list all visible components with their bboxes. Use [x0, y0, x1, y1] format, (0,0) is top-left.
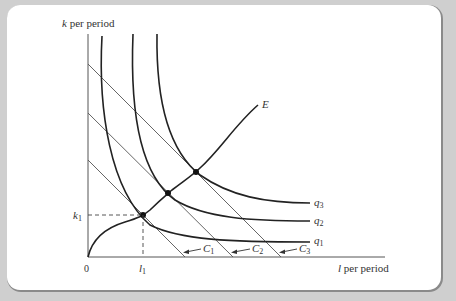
- k1-label: k1: [73, 209, 82, 223]
- cost-minimization-diagram: k per period l per period 0 q3 q2 q1 E k…: [0, 0, 456, 301]
- expansion-path-label: E: [261, 98, 269, 110]
- y-axis-label: k per period: [62, 17, 115, 29]
- origin-label: 0: [84, 263, 89, 274]
- isocost-c3-label: C3: [299, 242, 310, 256]
- isocost-c1-label: C1: [203, 242, 214, 256]
- isocost-c1: [88, 160, 185, 257]
- isoquant-q1-label: q1: [314, 234, 324, 248]
- isoquant-q2: [132, 34, 310, 221]
- x-axis-label: l per period: [338, 262, 389, 274]
- isocost-c3: [88, 64, 281, 257]
- isoquant-q3-label: q3: [314, 196, 324, 210]
- isocost-c2-label: C2: [252, 242, 263, 256]
- expansion-path: [88, 105, 258, 257]
- tangency-point-2: [165, 190, 171, 196]
- tangency-point-3: [193, 169, 199, 175]
- isoquant-q2-label: q2: [314, 214, 324, 228]
- arrowhead-c1: [183, 250, 189, 255]
- isocost-lines: [88, 64, 281, 257]
- arrowhead-c3: [279, 250, 285, 255]
- isoquant-q3: [157, 34, 310, 203]
- arrowhead-c2: [231, 250, 237, 255]
- isoquants: [101, 34, 310, 242]
- guide-lines: [88, 215, 143, 257]
- isocost-arrows: [183, 249, 297, 254]
- l1-label: l1: [139, 262, 146, 276]
